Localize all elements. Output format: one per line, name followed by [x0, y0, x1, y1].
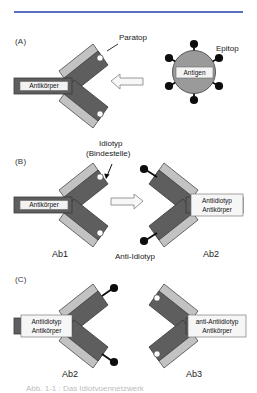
ab3-caption: Ab3 [186, 369, 202, 379]
panel-c-graphic: Antiidiotyp Antikörper anti-Antiidiotyp … [0, 0, 257, 393]
paratope-hole-icon [154, 295, 160, 301]
anti-idiotype-knob-icon [110, 358, 118, 366]
ab2-label-line2-panel-c: Antikörper [32, 327, 62, 335]
ab3-stem: anti-Antiidiotyp Antikörper [186, 315, 246, 337]
figure-idiotype-network: (A) Antikörper [0, 0, 257, 393]
ab2-caption-panel-c: Ab2 [62, 369, 78, 379]
ab3-label-line2: Antikörper [202, 327, 232, 335]
figure-caption-cropped: Abb. 1-1 : Das Idiotypennetzwerk [26, 384, 226, 391]
ab2-label-line1-panel-c: Antiidiotyp [32, 318, 62, 326]
anti-idiotype-knob-icon [110, 284, 118, 292]
paratope-hole-icon [154, 351, 160, 357]
ab2-stem-panel-c: Antiidiotyp Antikörper [14, 315, 72, 337]
ab3-label-line1: anti-Antiidiotyp [196, 318, 239, 326]
